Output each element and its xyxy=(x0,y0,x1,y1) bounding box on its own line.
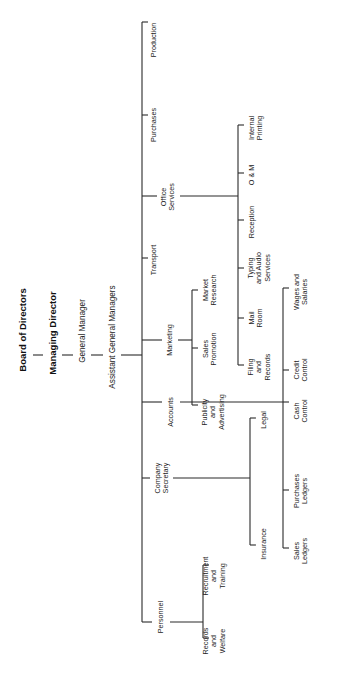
unit-records-welfare: Records and Welfare xyxy=(202,628,227,655)
dept-marketing: Marketing xyxy=(166,324,174,356)
unit-publicity-advertising: Publicity and Advertising xyxy=(201,394,226,430)
board-of-directors-box: Board of Directors xyxy=(17,288,28,371)
dept-personnel: Personnel xyxy=(157,601,165,633)
unit-typing-audio: Typing and Audio Services xyxy=(247,252,272,284)
dept-office-services: Office Services xyxy=(160,183,177,211)
org-chart: Board of Directors Managing Director Gen… xyxy=(0,0,338,676)
unit-wages-salaries: Wages and Salaries xyxy=(293,274,310,310)
dept-company-secretary: Company Secretary xyxy=(154,463,171,494)
unit-credit-control: Credit Control xyxy=(293,358,310,381)
unit-sales-promotion: Sales Promotion xyxy=(202,333,219,366)
assistant-general-managers-box: Assistant General Managers xyxy=(108,285,117,388)
managing-director-box: Managing Director xyxy=(47,291,58,374)
unit-filing-records: Filing and Records xyxy=(247,354,272,381)
unit-om: O & M xyxy=(248,165,256,185)
unit-mail-room: Mail Room xyxy=(248,308,265,327)
unit-cash-control: Cash Control xyxy=(293,399,310,422)
unit-market-research: Market Research xyxy=(202,275,219,306)
general-manager-box: General Manager xyxy=(78,299,87,363)
unit-purchases-ledgers: Purchases Ledgers xyxy=(293,474,310,508)
unit-sales-ledgers: Sales Ledgers xyxy=(293,538,310,564)
dept-purchases: Purchases xyxy=(150,108,158,142)
dept-transport: Transport xyxy=(150,245,158,276)
unit-recruitment-training: Recruitment and Training xyxy=(202,557,227,596)
unit-legal: Legal xyxy=(260,411,268,429)
unit-reception: Reception xyxy=(248,206,256,238)
dept-production: Production xyxy=(150,23,158,57)
unit-internal-printing: Internal Printing xyxy=(248,116,265,140)
dept-accounts: Accounts xyxy=(167,397,175,427)
unit-insurance: Insurance xyxy=(260,528,268,560)
